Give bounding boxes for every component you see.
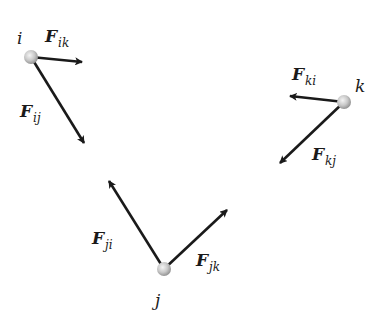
force-subscript: ki bbox=[305, 74, 316, 88]
force-label-f-ji: Fji bbox=[92, 230, 113, 247]
particle-k bbox=[337, 95, 351, 109]
force-symbol: F bbox=[20, 101, 32, 121]
force-subscript: jk bbox=[209, 260, 220, 274]
force-label-f-ki: Fki bbox=[292, 66, 316, 83]
force-symbol: F bbox=[196, 250, 208, 270]
particle-label-k: k bbox=[355, 78, 365, 95]
force-symbol: F bbox=[92, 228, 104, 248]
force-subscript: ik bbox=[58, 36, 69, 50]
force-label-f-kj: Fkj bbox=[312, 146, 336, 163]
force-symbol: F bbox=[312, 144, 324, 164]
force-arrow-f-ij bbox=[31, 57, 84, 143]
force-label-f-ik: Fik bbox=[45, 28, 69, 45]
particle-label-i: i bbox=[17, 30, 22, 47]
force-arrow-f-ki bbox=[290, 96, 344, 102]
force-arrow-f-ik bbox=[31, 57, 82, 62]
particle-j bbox=[157, 262, 171, 276]
force-arrows bbox=[31, 57, 344, 269]
force-symbol: F bbox=[292, 64, 304, 84]
force-symbol: F bbox=[45, 26, 57, 46]
force-label-f-ij: Fij bbox=[20, 103, 41, 120]
particle-i bbox=[24, 50, 38, 64]
force-subscript: kj bbox=[325, 154, 336, 168]
particle-label-j: j bbox=[155, 292, 160, 309]
force-label-f-jk: Fjk bbox=[196, 252, 220, 269]
three-body-force-diagram: i j k Fik Fij Fki Fkj Fji Fjk bbox=[0, 0, 388, 329]
force-arrow-f-ji bbox=[109, 181, 164, 269]
force-subscript: ij bbox=[33, 111, 41, 125]
force-subscript: ji bbox=[105, 238, 113, 252]
